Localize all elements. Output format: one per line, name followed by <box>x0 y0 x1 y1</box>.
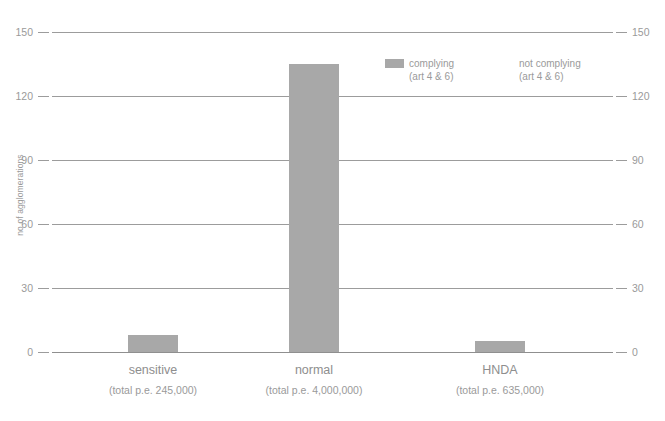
tick-mark-left-120 <box>38 96 49 97</box>
tick-mark-right-90 <box>616 160 627 161</box>
legend-label-line1: complying <box>409 57 454 70</box>
y-tick-label-right-150: 150 <box>632 27 650 38</box>
legend-label-line2: (art 4 & 6) <box>519 70 581 83</box>
category-sublabel: (total p.e. 4,000,000) <box>214 385 414 397</box>
category-name: HNDA <box>400 364 600 378</box>
tick-mark-left-30 <box>38 288 49 289</box>
category-sublabel: (total p.e. 635,000) <box>400 385 600 397</box>
legend-swatch-complying <box>385 59 404 68</box>
gridline-0 <box>52 352 613 353</box>
tick-mark-left-90 <box>38 160 49 161</box>
legend-label-line1: not complying <box>519 57 581 70</box>
y-tick-label-left-30: 30 <box>21 283 33 294</box>
category-name: normal <box>214 364 414 378</box>
y-tick-label-left-0: 0 <box>27 347 33 358</box>
y-tick-label-left-60: 60 <box>21 219 33 230</box>
bar-hnda-complying <box>475 341 525 352</box>
y-axis-title: no of agglomerations <box>15 115 25 275</box>
y-tick-label-right-0: 0 <box>632 347 638 358</box>
bar-chart: no of agglomerations 0030306060909012012… <box>0 0 665 421</box>
legend-label: complying(art 4 & 6) <box>409 57 454 83</box>
legend-swatch-not-complying <box>495 59 514 68</box>
y-tick-label-right-60: 60 <box>632 219 644 230</box>
tick-mark-right-0 <box>616 352 627 353</box>
tick-mark-left-60 <box>38 224 49 225</box>
gridline-150 <box>52 32 613 33</box>
category-label-normal: normal(total p.e. 4,000,000) <box>214 364 414 396</box>
bar-normal-complying <box>289 64 339 352</box>
tick-mark-left-150 <box>38 32 49 33</box>
tick-mark-left-0 <box>38 352 49 353</box>
y-tick-label-left-90: 90 <box>21 155 33 166</box>
bar-sensitive-complying <box>128 335 178 352</box>
tick-mark-right-30 <box>616 288 627 289</box>
tick-mark-right-150 <box>616 32 627 33</box>
y-tick-label-left-120: 120 <box>15 91 33 102</box>
chart-legend: complying(art 4 & 6)not complying(art 4 … <box>385 57 635 97</box>
category-label-hnda: HNDA(total p.e. 635,000) <box>400 364 600 396</box>
tick-mark-right-60 <box>616 224 627 225</box>
y-tick-label-right-90: 90 <box>632 155 644 166</box>
y-tick-label-right-30: 30 <box>632 283 644 294</box>
legend-label-line2: (art 4 & 6) <box>409 70 454 83</box>
legend-label: not complying(art 4 & 6) <box>519 57 581 83</box>
y-tick-label-left-150: 150 <box>15 27 33 38</box>
